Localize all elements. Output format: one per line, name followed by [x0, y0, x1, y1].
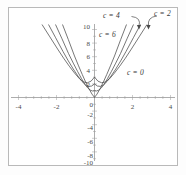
- y-tick-label: 8: [87, 40, 91, 48]
- figure-screenshot: 10 8 6 4 2 0 -2 -4 -6 -8 -10 -4 -2 2 4 c…: [0, 0, 186, 175]
- x-tick-label: 2: [131, 103, 135, 111]
- y-tick-label: -4: [87, 124, 93, 132]
- plot-frame: 10 8 6 4 2 0 -2 -4 -6 -8 -10 -4 -2 2 4: [8, 7, 178, 166]
- x-tick-label: 4: [169, 103, 173, 111]
- y-tick-label: -10: [84, 159, 94, 166]
- y-tick-label: 2: [87, 81, 91, 89]
- curve-label-c4: c = 4: [103, 11, 120, 20]
- y-tick-label: 0: [90, 101, 94, 109]
- arrow-to-c4-curve: [132, 17, 140, 27]
- curve-label-c6: c = 6: [99, 30, 116, 39]
- x-tick-label: -2: [54, 103, 60, 111]
- arrowhead-c4: [137, 25, 141, 30]
- y-tick-label: -2: [87, 111, 93, 119]
- parabola-family-chart: 10 8 6 4 2 0 -2 -4 -6 -8 -10 -4 -2 2 4: [9, 8, 177, 165]
- x-tick-label: -4: [16, 103, 22, 111]
- curve-label-c0: c = 0: [127, 68, 144, 77]
- y-tick-label: 4: [87, 67, 91, 75]
- arrowhead-c2: [146, 25, 150, 30]
- y-tick-label: 6: [87, 53, 91, 61]
- y-tick-label: -6: [87, 138, 93, 146]
- y-tick-label: 10: [83, 23, 91, 31]
- annotation-arrows: [132, 16, 158, 30]
- curve-label-c2: c = 2: [154, 9, 171, 18]
